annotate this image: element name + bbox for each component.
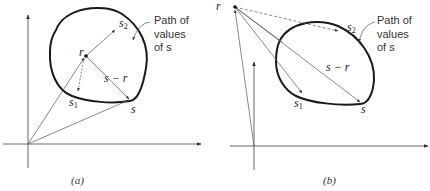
vector-r-to-s2-a <box>86 30 115 56</box>
annotation-leader-b <box>359 22 375 42</box>
label-s1-sub-a: 1 <box>74 101 78 110</box>
annotation-path-of-values-a: Path of values of s <box>154 14 189 55</box>
label-s2-sub-b: 2 <box>352 26 356 35</box>
annotation-path-of-values-b: Path of values of s <box>377 14 412 55</box>
label-s1-b: s1 <box>294 97 303 111</box>
caption-a: (a) <box>71 174 84 186</box>
label-s2-b: s2 <box>347 21 356 35</box>
annotation-line-2-b: values <box>377 28 412 42</box>
point-r-a <box>84 54 88 58</box>
annotation-line-1-a: Path of <box>154 14 189 28</box>
annotation-line-1-b: Path of <box>377 14 412 28</box>
label-r-b: r <box>216 0 221 12</box>
label-s-a: s <box>131 103 136 115</box>
annotation-line-3-b: of s <box>377 41 412 55</box>
label-s1-a: s1 <box>69 96 78 110</box>
annotation-line-2-a: values <box>154 28 189 42</box>
label-s2-a: s2 <box>119 17 128 31</box>
label-s-b: s <box>361 103 366 115</box>
vector-path-figure: r s2 s − r s1 s Path of values of s (a) … <box>0 0 430 191</box>
label-r-a: r <box>79 46 84 58</box>
label-s2-sub-a: 2 <box>124 22 128 31</box>
vector-origin-to-s-a <box>28 100 129 144</box>
label-s-minus-r-a: s − r <box>104 72 127 84</box>
label-s1-sub-b: 1 <box>299 102 303 111</box>
label-s-minus-r-b: s − r <box>326 61 349 73</box>
diagram-canvas <box>0 0 430 191</box>
point-r-b <box>233 5 237 9</box>
annotation-line-3-a: of s <box>154 41 189 55</box>
vector-origin-to-r-b <box>235 10 254 146</box>
caption-b: (b) <box>323 174 336 186</box>
